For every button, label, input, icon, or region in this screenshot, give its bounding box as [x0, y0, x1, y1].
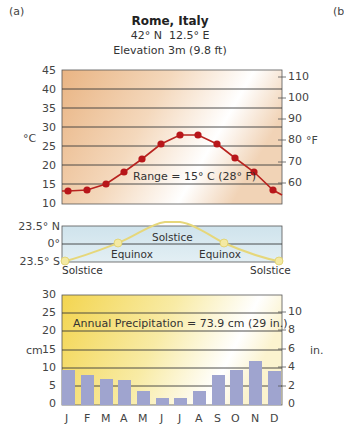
equinox-point-1 [114, 239, 122, 247]
temp-tick-40: 40 [20, 84, 56, 96]
bar-dec [268, 371, 281, 405]
precip-tick-in-4: 4 [288, 361, 295, 373]
temp-tick-f-110: 110 [288, 71, 309, 83]
month-label-apr: A [120, 413, 128, 425]
month-label-feb: F [84, 413, 90, 425]
bar-oct [230, 370, 243, 405]
precipitation-annual-annotation: Annual Precipitation = 73.9 cm (29 in.) [73, 317, 288, 330]
month-label-aug: A [195, 413, 203, 425]
bar-apr [118, 380, 131, 405]
temp-tick-f-70: 70 [288, 156, 302, 168]
bar-aug [193, 391, 206, 405]
month-label-jan: J [65, 413, 68, 425]
sun-label-equinox-1: Equinox [111, 248, 153, 260]
month-label-mar: M [101, 413, 111, 425]
month-label-jun: J [160, 413, 163, 425]
month-label-oct: O [231, 413, 240, 425]
month-label-jul: J [178, 413, 181, 425]
temp-tick-10: 10 [20, 198, 56, 210]
temp-point-may [138, 155, 145, 162]
precip-tick-in-10: 10 [288, 306, 302, 318]
temp-unit-celsius: °C [23, 132, 36, 145]
temp-unit-fahrenheit: °F [306, 134, 318, 147]
precip-unit-inches: in. [310, 344, 324, 357]
temp-point-jun [157, 140, 164, 147]
temp-tick-15: 15 [20, 179, 56, 191]
month-label-nov: N [251, 413, 259, 425]
temp-tick-45: 45 [20, 65, 56, 77]
precip-tick-5: 5 [20, 380, 56, 392]
sun-label-solstice-right: Solstice [250, 264, 291, 276]
temp-point-aug [194, 131, 201, 138]
month-label-dec: D [270, 413, 278, 425]
temp-tick-f-80: 80 [288, 134, 302, 146]
sun-label-solstice-left: Solstice [62, 264, 103, 276]
temp-point-oct [231, 154, 238, 161]
temp-tick-f-100: 100 [288, 92, 309, 104]
precipitation-plot [62, 295, 286, 405]
sun-label-equinox-2: Equinox [199, 248, 241, 260]
temp-point-mar [102, 180, 109, 187]
temp-point-sep [213, 140, 220, 147]
precip-tick-0: 0 [20, 398, 56, 410]
bar-jun [156, 398, 169, 405]
temp-tick-f-60: 60 [288, 177, 302, 189]
sun-tick-south: 23.5° S [4, 256, 60, 268]
month-label-sep: S [214, 413, 221, 425]
sun-label-solstice-top: Solstice [152, 231, 193, 243]
bar-nov [249, 361, 262, 405]
bar-jul [174, 398, 187, 405]
temp-point-feb [83, 186, 90, 193]
temp-point-jul [176, 131, 183, 138]
precip-tick-in-6: 6 [288, 343, 295, 355]
precip-tick-10: 10 [20, 362, 56, 374]
precip-unit-cm: cm [26, 344, 43, 357]
precip-tick-in-2: 2 [288, 380, 295, 392]
precip-tick-30: 30 [20, 289, 56, 301]
temp-point-apr [120, 168, 127, 175]
equinox-point-2 [220, 239, 228, 247]
temp-tick-20: 20 [20, 160, 56, 172]
temperature-range-annotation: Range = 15° C (28° F) [133, 170, 256, 183]
temp-tick-35: 35 [20, 103, 56, 115]
bar-mar [100, 379, 113, 405]
precip-tick-20: 20 [20, 325, 56, 337]
temp-point-dec [269, 186, 276, 193]
bar-jan [62, 370, 75, 405]
temp-tick-f-90: 90 [288, 113, 302, 125]
bar-sep [212, 375, 225, 405]
temperature-plot [62, 70, 286, 204]
sun-declination-plot [61, 222, 283, 265]
bar-feb [81, 375, 94, 405]
month-label-may: M [138, 413, 148, 425]
precip-tick-in-8: 8 [288, 324, 295, 336]
temp-point-jan [64, 187, 71, 194]
sun-tick-zero: 0° [4, 238, 60, 250]
precip-tick-in-0: 0 [288, 398, 295, 410]
sun-tick-north: 23.5° N [4, 221, 60, 233]
bar-may [137, 391, 150, 405]
precip-tick-25: 25 [20, 307, 56, 319]
